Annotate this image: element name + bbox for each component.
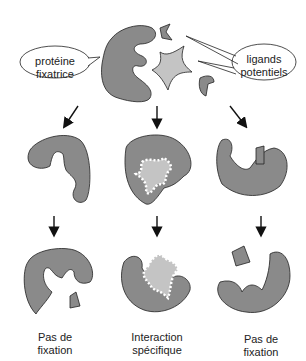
binding-diagram: protéine fixatrice ligands potentiels Pa… [0, 0, 306, 361]
binding-protein-top [102, 26, 156, 102]
ligand-small-2 [199, 76, 214, 96]
label-middle-result: Interaction spécifique [117, 331, 197, 357]
complex-right [217, 139, 287, 195]
ligand-small-1 [160, 24, 172, 40]
result-right [218, 252, 290, 312]
complex-left [28, 135, 90, 202]
result-left [24, 249, 92, 315]
ligand-star [152, 46, 192, 90]
label-ligands: ligands potentiels [232, 53, 296, 79]
label-protein: protéine fixatrice [20, 55, 90, 81]
label-right-result: Pas de fixation [226, 333, 296, 359]
label-left-result: Pas de fixation [20, 331, 90, 357]
